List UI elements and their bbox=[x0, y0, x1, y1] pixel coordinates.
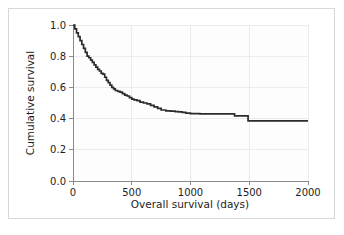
x-tick-label: 1500 bbox=[237, 187, 262, 198]
x-tick-label: 2000 bbox=[295, 187, 320, 198]
y-tick-label: 0.4 bbox=[50, 113, 66, 124]
y-tick-label: 0.0 bbox=[50, 176, 66, 187]
x-tick-label: 500 bbox=[122, 187, 141, 198]
y-tick-label: 0.8 bbox=[50, 51, 66, 62]
figure-container: 0500100015002000 0.00.20.40.60.81.0 Over… bbox=[0, 0, 344, 235]
x-tick-label: 1000 bbox=[178, 187, 203, 198]
y-axis-tick-marks bbox=[69, 25, 73, 181]
y-tick-label: 0.2 bbox=[50, 144, 66, 155]
y-axis-tick-labels: 0.00.20.40.60.81.0 bbox=[50, 20, 66, 187]
y-tick-label: 1.0 bbox=[50, 20, 66, 31]
y-tick-label: 0.6 bbox=[50, 82, 66, 93]
x-axis-title: Overall survival (days) bbox=[131, 198, 249, 210]
x-axis-tick-marks bbox=[73, 181, 308, 185]
y-axis-title: Cumulative survival bbox=[24, 51, 36, 155]
x-axis-tick-labels: 0500100015002000 bbox=[70, 187, 321, 198]
survival-chart: 0500100015002000 0.00.20.40.60.81.0 Over… bbox=[0, 0, 344, 235]
x-tick-label: 0 bbox=[70, 187, 76, 198]
